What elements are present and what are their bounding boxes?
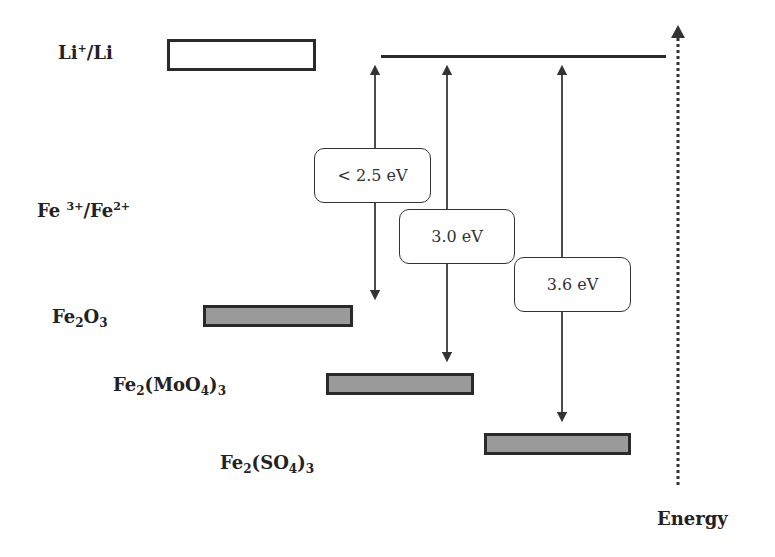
gap-label-fe2o3: < 2.5 eV (314, 148, 431, 203)
gap-label-fe2so43: 3.6 eV (514, 257, 631, 312)
gap-label-fe2moo43: 3.0 eV (399, 209, 515, 264)
arrows-layer (0, 0, 775, 557)
energy-axis-arrow-icon (671, 25, 685, 485)
